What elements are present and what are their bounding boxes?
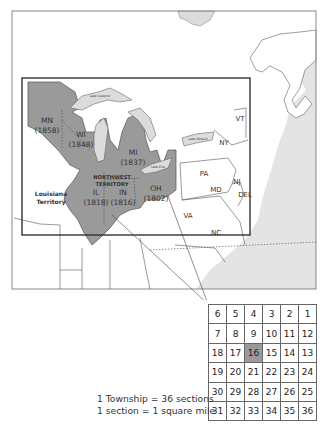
section-cell: 26 (281, 382, 299, 401)
section-cell: 19 (209, 363, 227, 382)
state-label-oh: OH (150, 184, 162, 193)
section-cell: 3 (263, 305, 281, 324)
pointer-line (112, 215, 208, 300)
section-cell: 28 (245, 382, 263, 401)
state-year-mn: (1858) (35, 126, 60, 135)
state-label-in: IN (119, 188, 127, 197)
caption-line: 1 section = 1 square mile (97, 405, 215, 417)
section-cell: 36 (299, 401, 317, 420)
section-cell: 22 (263, 363, 281, 382)
state-label-vt: VT (235, 115, 245, 123)
state-year-mi: (1837) (121, 158, 146, 167)
section-cell-highlighted: 16 (245, 343, 263, 362)
state-label-mi: MI (129, 148, 138, 157)
section-cell: 20 (227, 363, 245, 382)
state-year-in: (1816) (111, 198, 136, 207)
louisiana-territory-label: Territory (36, 198, 65, 206)
hudson-bay (178, 11, 215, 26)
section-cell: 5 (227, 305, 245, 324)
state-label-nj: NJ (233, 178, 240, 186)
state-label-del: DEL (238, 191, 252, 199)
louisiana-territory-label: Louisiana (35, 190, 67, 197)
state-label-wi: WI (76, 130, 86, 139)
section-cell: 1 (299, 305, 317, 324)
section-cell: 33 (245, 401, 263, 420)
section-cell: 6 (209, 305, 227, 324)
section-cell: 9 (245, 324, 263, 343)
section-cell: 13 (299, 343, 317, 362)
section-cell: 4 (245, 305, 263, 324)
section-cell: 25 (299, 382, 317, 401)
section-cell: 17 (227, 343, 245, 362)
township-caption: 1 Township = 36 sections 1 section = 1 s… (97, 393, 215, 417)
section-cell: 14 (281, 343, 299, 362)
section-cell: 35 (281, 401, 299, 420)
section-cell: 10 (263, 324, 281, 343)
state-year-wi: (1848) (69, 140, 94, 149)
state-label-pa: PA (200, 170, 209, 178)
section-cell: 15 (263, 343, 281, 362)
state-label-ny: NY (219, 139, 229, 147)
section-cell: 24 (299, 363, 317, 382)
lake-superior-label: Lake Superior (90, 94, 111, 98)
state-label-nc: NC (211, 229, 221, 237)
section-cell: 34 (263, 401, 281, 420)
section-cell: 18 (209, 343, 227, 362)
township-grid: 6 5 4 3 2 1 7 8 9 10 11 12 18 17 16 15 1… (208, 304, 317, 421)
state-label-md: MD (210, 186, 221, 194)
section-cell: 11 (281, 324, 299, 343)
northwest-territory-label: NORTHWEST (93, 174, 131, 180)
section-cell: 29 (227, 382, 245, 401)
section-cell: 32 (227, 401, 245, 420)
state-year-il: (1818) (84, 198, 109, 207)
state-label-il: IL (93, 188, 100, 197)
state-label-mn: MN (41, 116, 53, 125)
section-cell: 12 (299, 324, 317, 343)
section-cell: 8 (227, 324, 245, 343)
section-cell: 27 (263, 382, 281, 401)
lake-superior (70, 88, 132, 110)
section-cell: 7 (209, 324, 227, 343)
section-cell: 2 (281, 305, 299, 324)
lake-ontario-label: Lake Ontario (188, 137, 207, 141)
map: MN (1858) WI (1848) MI (1837) IL (1818) … (0, 0, 327, 300)
state-year-oh: (1802) (144, 194, 169, 203)
state-label-va: VA (183, 212, 192, 220)
caption-line: 1 Township = 36 sections (97, 393, 215, 405)
northwest-territory-label: TERRITORY (95, 181, 128, 187)
lake-erie-label: Lake Erie (151, 165, 165, 169)
section-cell: 23 (281, 363, 299, 382)
section-cell: 21 (245, 363, 263, 382)
